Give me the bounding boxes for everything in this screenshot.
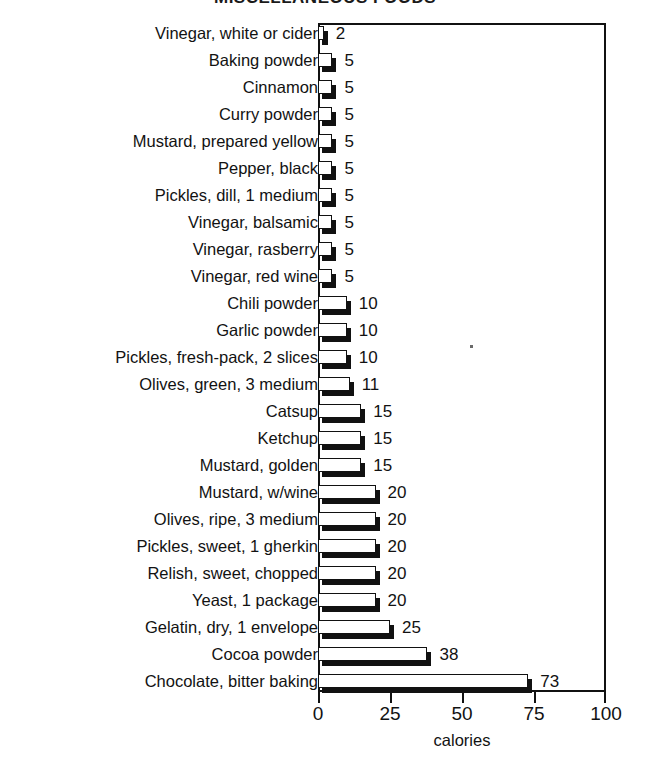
category-label: Vinegar, rasberry xyxy=(193,240,318,259)
bar xyxy=(318,269,338,288)
bar-row: Yeast, 1 package20 xyxy=(0,590,650,617)
category-label: Yeast, 1 package xyxy=(192,591,318,610)
bar xyxy=(318,80,338,99)
bar-face xyxy=(318,53,332,67)
bar-face xyxy=(318,566,376,580)
bar-face xyxy=(318,647,427,661)
scan-artifact xyxy=(470,345,473,348)
bar-value-label: 73 xyxy=(540,672,559,691)
bar-face xyxy=(318,350,347,364)
bar-row: Cocoa powder38 xyxy=(0,644,650,671)
category-label: Mustard, w/wine xyxy=(199,483,318,502)
bar-face xyxy=(318,458,361,472)
x-axis-tick-label: 0 xyxy=(313,703,324,725)
bar xyxy=(318,647,433,666)
bar-face xyxy=(318,620,390,634)
bar xyxy=(318,512,382,531)
x-axis-tick xyxy=(318,692,320,703)
bar xyxy=(318,107,338,126)
bar-row: Vinegar, white or cider2 xyxy=(0,23,650,50)
bar-value-label: 10 xyxy=(359,348,378,367)
category-label: Vinegar, balsamic xyxy=(188,213,318,232)
bar-row: Mustard, w/wine20 xyxy=(0,482,650,509)
x-axis-tick-label: 75 xyxy=(523,703,544,725)
bar xyxy=(318,242,338,261)
bar xyxy=(318,53,338,72)
bar-face xyxy=(318,188,332,202)
bar-value-label: 25 xyxy=(402,618,421,637)
bar-face xyxy=(318,539,376,553)
category-label: Mustard, prepared yellow xyxy=(133,132,318,151)
bar-value-label: 5 xyxy=(344,159,353,178)
category-label: Gelatin, dry, 1 envelope xyxy=(145,618,318,637)
bar-value-label: 20 xyxy=(388,537,407,556)
bar-row: Gelatin, dry, 1 envelope25 xyxy=(0,617,650,644)
bar-value-label: 20 xyxy=(388,591,407,610)
bar-row: Pickles, fresh-pack, 2 slices10 xyxy=(0,347,650,374)
bar-face xyxy=(318,242,332,256)
bar-value-label: 11 xyxy=(362,375,380,394)
bar xyxy=(318,674,534,693)
x-axis-tick xyxy=(462,692,464,703)
category-label: Pickles, fresh-pack, 2 slices xyxy=(115,348,318,367)
bar xyxy=(318,350,353,369)
bar-face xyxy=(318,431,361,445)
category-label: Mustard, golden xyxy=(200,456,318,475)
category-label: Baking powder xyxy=(209,51,318,70)
category-label: Vinegar, red wine xyxy=(191,267,318,286)
category-label: Olives, ripe, 3 medium xyxy=(154,510,318,529)
bar-value-label: 5 xyxy=(344,267,353,286)
bar xyxy=(318,26,330,45)
bar-value-label: 5 xyxy=(344,105,353,124)
category-label: Cinnamon xyxy=(243,78,318,97)
bar-face xyxy=(318,107,332,121)
bar xyxy=(318,134,338,153)
x-axis-tick-label: 100 xyxy=(590,703,622,725)
bar-face xyxy=(318,377,350,391)
bar-rows: Vinegar, white or cider2Baking powder5Ci… xyxy=(0,23,650,692)
category-label: Chili powder xyxy=(227,294,318,313)
bar-row: Pickles, sweet, 1 gherkin20 xyxy=(0,536,650,563)
x-axis-tick xyxy=(604,692,606,703)
bar-row: Pickles, dill, 1 medium5 xyxy=(0,185,650,212)
bar xyxy=(318,566,382,585)
x-axis-title: calories xyxy=(318,731,606,750)
bar-value-label: 5 xyxy=(344,132,353,151)
category-label: Curry powder xyxy=(219,105,318,124)
x-axis-tick-label: 25 xyxy=(379,703,400,725)
bar xyxy=(318,404,367,423)
bar-value-label: 2 xyxy=(336,24,345,43)
bar-row: Vinegar, rasberry5 xyxy=(0,239,650,266)
x-axis-tick xyxy=(390,692,392,703)
chart-title: MISCELLANEOUS FOODS xyxy=(0,0,650,8)
bar xyxy=(318,296,353,315)
bar xyxy=(318,458,367,477)
category-label: Pickles, dill, 1 medium xyxy=(155,186,318,205)
bar-row: Mustard, prepared yellow5 xyxy=(0,131,650,158)
bar xyxy=(318,431,367,450)
category-label: Olives, green, 3 medium xyxy=(139,375,318,394)
bar-value-label: 5 xyxy=(344,240,353,259)
bar-value-label: 20 xyxy=(388,510,407,529)
bar-value-label: 20 xyxy=(388,483,407,502)
x-axis-tick-label: 50 xyxy=(451,703,472,725)
bar-face xyxy=(318,593,376,607)
bar-face xyxy=(318,161,332,175)
bar-row: Catsup15 xyxy=(0,401,650,428)
category-label: Pepper, black xyxy=(218,159,318,178)
bar xyxy=(318,215,338,234)
category-label: Relish, sweet, chopped xyxy=(147,564,318,583)
bar-value-label: 15 xyxy=(373,402,392,421)
bar-row: Relish, sweet, chopped20 xyxy=(0,563,650,590)
bar-face xyxy=(318,674,528,688)
bar-row: Mustard, golden15 xyxy=(0,455,650,482)
category-label: Garlic powder xyxy=(216,321,318,340)
bar-row: Ketchup15 xyxy=(0,428,650,455)
bar xyxy=(318,323,353,342)
bar-row: Pepper, black5 xyxy=(0,158,650,185)
bar-face xyxy=(318,134,332,148)
category-label: Pickles, sweet, 1 gherkin xyxy=(136,537,318,556)
bar-row: Chili powder10 xyxy=(0,293,650,320)
bar-row: Olives, ripe, 3 medium20 xyxy=(0,509,650,536)
bar-face xyxy=(318,26,324,40)
